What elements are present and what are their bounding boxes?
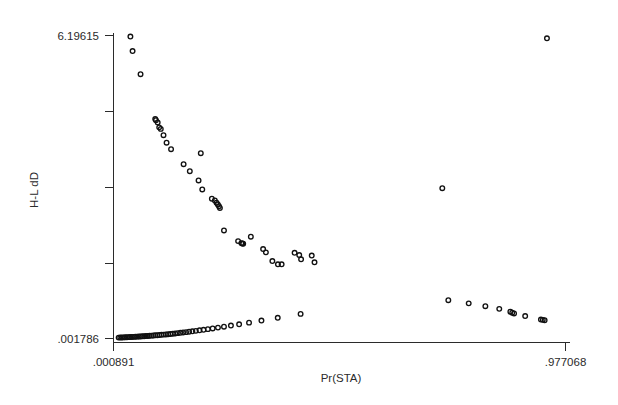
data-point [497,307,502,312]
y-axis-title: H-L dD [28,172,40,208]
data-point [130,49,135,54]
data-point-group [116,34,549,340]
data-point [446,298,451,303]
data-point [312,260,317,265]
data-point [249,234,254,239]
data-point [222,324,227,329]
x-axis-right-tick-label: .977068 [545,356,587,368]
data-point [200,187,205,192]
x-axis-title: Pr(STA) [321,372,362,384]
data-point [169,147,174,152]
data-point [545,36,550,41]
data-point [138,72,143,77]
data-point [275,316,280,321]
x-axis-left-tick-label: .000891 [93,356,135,368]
data-point [259,318,264,323]
data-point [198,151,203,156]
data-point [210,326,215,331]
data-point [216,325,221,330]
data-point [247,320,252,325]
data-point [309,253,314,258]
data-point [299,257,304,262]
y-axis-ticks [105,36,114,339]
data-point [237,322,242,327]
x-axis-ticks [114,343,566,352]
data-point [292,251,297,256]
plot-canvas: 6.19615 .001786 H-L dD .000891 .977068 P… [0,0,618,405]
data-point [196,178,201,183]
data-point [483,304,488,309]
data-point [222,228,227,233]
data-point [264,250,269,255]
y-axis-bottom-tick-label: .001786 [57,333,99,345]
data-point [298,312,303,317]
data-point [229,323,234,328]
data-point [523,314,528,319]
data-point [440,186,445,191]
data-point [188,169,193,174]
data-point [466,301,471,306]
data-point [270,259,275,264]
y-axis-top-tick-label: 6.19615 [57,30,99,42]
data-point [161,133,166,138]
scatter-plot-figure: 6.19615 .001786 H-L dD .000891 .977068 P… [0,0,618,405]
data-point [128,34,133,39]
data-point [181,162,186,167]
data-point [164,140,169,145]
